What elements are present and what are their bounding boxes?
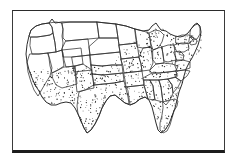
figure-root (0, 0, 239, 166)
state-illinois (139, 47, 153, 71)
us-map-svg (0, 0, 239, 166)
state-idaho (49, 22, 63, 52)
state-alabama (150, 80, 163, 102)
state-nebraska (90, 52, 122, 66)
state-tennessee (143, 71, 177, 80)
state-montana (62, 22, 99, 41)
state-boundaries (26, 19, 201, 133)
state-ohio (162, 45, 176, 62)
state-north-dakota (97, 22, 118, 38)
state-wyoming (62, 39, 90, 57)
state-oregon (30, 33, 56, 54)
state-utah (62, 48, 83, 67)
state-missouri (121, 57, 142, 73)
state-arkansas (124, 71, 144, 87)
state-iowa (119, 43, 139, 59)
state-minnesota (116, 24, 137, 45)
